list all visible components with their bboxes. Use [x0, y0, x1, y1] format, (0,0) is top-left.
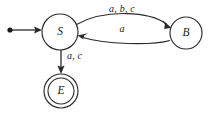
transition-s-to-b-label: a, b, c: [109, 3, 135, 14]
fsm-canvas: a, b, c a a, c S B E: [0, 0, 208, 113]
state-node-b[interactable]: B: [170, 17, 202, 49]
transition-b-to-s-label: a: [119, 23, 124, 34]
transition-s-to-e-label: a, c: [67, 50, 83, 61]
state-node-e[interactable]: E: [44, 74, 78, 108]
state-s-label: S: [57, 25, 63, 37]
transition-s-to-e: a, c: [57, 50, 82, 74]
start-marker-group: [7, 26, 42, 33]
transition-s-to-b-arrow-head-icon: [163, 20, 172, 29]
state-machine-diagram: a, b, c a a, c S B E: [0, 0, 208, 113]
state-node-s[interactable]: S: [42, 14, 78, 50]
state-b-label: B: [182, 26, 189, 38]
state-e-label: E: [56, 84, 64, 96]
transition-b-to-s-path: [83, 38, 170, 44]
transition-b-to-s: a: [78, 23, 171, 43]
